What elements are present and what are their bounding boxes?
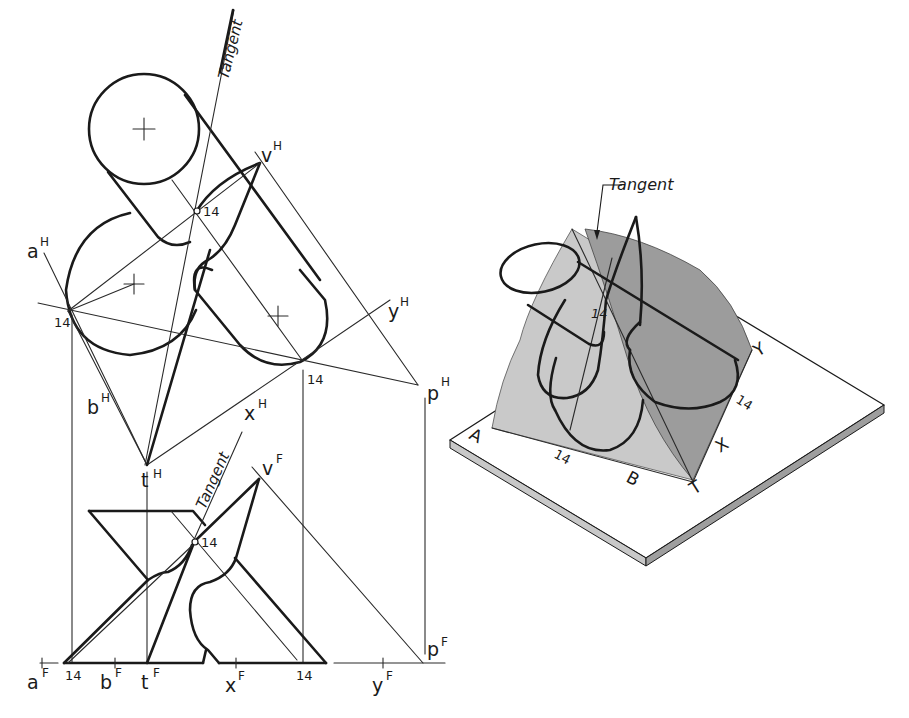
label-v: v xyxy=(261,144,272,166)
label-v-sup: H xyxy=(273,139,282,153)
label-v-front-sup: F xyxy=(276,452,283,466)
label-t-front: t xyxy=(141,671,148,693)
label-a-front: a xyxy=(27,671,39,693)
label-t-sup: H xyxy=(153,467,162,481)
label-14-front: 14 xyxy=(201,535,218,550)
label-x-sup: H xyxy=(258,397,267,411)
label-p-sup: H xyxy=(441,375,450,389)
label-p-front-sup: F xyxy=(441,635,448,649)
label-14-front-left: 14 xyxy=(65,668,82,683)
tangent-element-front xyxy=(68,541,197,663)
label-y-sup: H xyxy=(400,295,409,309)
label-t: t xyxy=(141,469,148,491)
label-t-front-sup: F xyxy=(153,666,160,680)
label-a-sup: H xyxy=(40,235,49,249)
cylinder-outline-right xyxy=(185,95,320,280)
vp-line-front xyxy=(252,467,423,663)
pictorial-view: Tangent 14 A 14 B T X 14 Y xyxy=(450,175,884,566)
cylinder-axis xyxy=(172,180,302,360)
tangent-label-front: Tangent xyxy=(192,448,233,512)
label-x: x xyxy=(244,402,255,424)
figure-canvas: Tangent v H 14 a H 14 y H 14 p H b H x H… xyxy=(0,0,909,718)
top-view: Tangent v H 14 a H 14 y H 14 p H b H x H… xyxy=(27,10,450,662)
a-t-line xyxy=(68,311,147,465)
tangent-label-pictorial: Tangent xyxy=(609,175,674,194)
label-a-front-sup: F xyxy=(42,666,49,680)
cone-element-line xyxy=(68,163,260,311)
label-y-front-sup: F xyxy=(386,669,393,683)
label-p: p xyxy=(427,382,439,404)
label-b-sup: H xyxy=(101,391,110,405)
cone-front-element xyxy=(147,540,195,663)
cylinder-front-left-edge xyxy=(89,511,148,580)
tangent-label-top: Tangent xyxy=(214,17,246,81)
label-14-pictorial-top: 14 xyxy=(591,306,608,321)
cylinder-front-axis xyxy=(171,511,297,660)
label-b: b xyxy=(87,396,99,418)
descriptive-geometry-figure: Tangent v H 14 a H 14 y H 14 p H b H x H… xyxy=(0,0,909,718)
label-14-left: 14 xyxy=(54,315,71,330)
cone-axis-line xyxy=(68,284,134,311)
label-p-front: p xyxy=(427,638,439,660)
tx-line xyxy=(147,300,390,465)
label-14-right: 14 xyxy=(307,372,324,387)
label-y: y xyxy=(388,300,399,322)
label-x-front-sup: F xyxy=(238,669,245,683)
label-v-front: v xyxy=(262,457,273,479)
tangent-point-marker xyxy=(194,208,200,214)
tangent-point-marker-front xyxy=(192,539,198,545)
front-view: Tangent 14 v F p F a F 14 b F t F x F 14… xyxy=(27,432,448,696)
label-b-front: b xyxy=(100,671,112,693)
label-x-front: x xyxy=(225,674,236,696)
label-a: a xyxy=(27,240,39,262)
cylinder-base-outline xyxy=(194,268,327,365)
vp-line xyxy=(255,152,418,385)
label-b-front-sup: F xyxy=(115,666,122,680)
cone-outline-to-t xyxy=(147,250,210,465)
label-y-front: y xyxy=(372,674,383,696)
cylinder-front-right-edge xyxy=(235,558,326,663)
label-14-top: 14 xyxy=(203,204,220,219)
cone-base-notch xyxy=(203,650,206,663)
cone-front-left xyxy=(64,545,192,663)
label-14-front-right: 14 xyxy=(296,668,313,683)
